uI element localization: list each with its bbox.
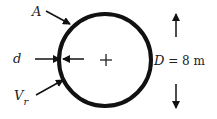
center-cross-icon <box>100 54 112 66</box>
label-area: A <box>31 4 41 19</box>
arrow-volume <box>36 80 63 95</box>
label-diameter: D = 8 m <box>153 53 206 68</box>
label-volume: Vr <box>14 88 29 107</box>
label-thickness: d <box>13 51 21 66</box>
arrow-area <box>46 11 70 24</box>
pipe-cross-section-diagram: A d Vr D = 8 m <box>0 0 217 119</box>
